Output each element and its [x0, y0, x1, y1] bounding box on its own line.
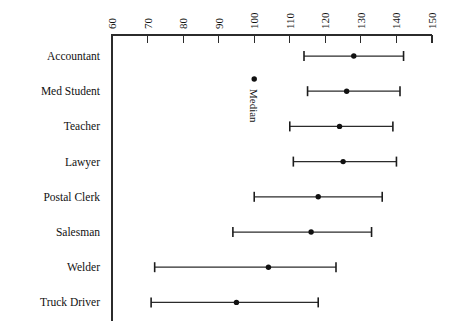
range-plot-chart: 60708090100110120130140150 AccountantMed… [0, 0, 452, 321]
x-tick-label-120: 120 [319, 12, 331, 29]
median-marker [337, 124, 342, 129]
median-legend-label: Median [248, 89, 260, 123]
x-tick-label-60: 60 [106, 18, 118, 30]
x-tick-label-140: 140 [390, 12, 402, 29]
x-tick-label-90: 90 [213, 18, 225, 30]
median-marker [308, 229, 313, 234]
x-tick-label-130: 130 [355, 12, 367, 29]
category-label-postal-clerk: Postal Clerk [43, 191, 100, 203]
chart-canvas: 60708090100110120130140150 AccountantMed… [0, 0, 452, 321]
x-tick-label-80: 80 [177, 18, 189, 30]
category-label-welder: Welder [67, 261, 100, 273]
median-marker [266, 265, 271, 270]
category-label-truck-driver: Truck Driver [40, 296, 100, 308]
category-label-lawyer: Lawyer [65, 156, 100, 169]
x-tick-label-150: 150 [426, 12, 438, 29]
median-marker [234, 300, 239, 305]
median-marker [344, 89, 349, 94]
x-tick-label-110: 110 [284, 12, 296, 29]
category-label-teacher: Teacher [64, 120, 100, 132]
median-marker [316, 194, 321, 199]
category-label-accountant: Accountant [47, 50, 101, 62]
x-tick-label-100: 100 [248, 12, 260, 29]
category-label-med-student: Med Student [41, 85, 101, 97]
category-label-salesman: Salesman [56, 226, 100, 238]
median-marker [351, 53, 356, 58]
median-marker [340, 159, 345, 164]
x-tick-label-70: 70 [142, 18, 154, 30]
median-legend-dot [252, 76, 257, 81]
